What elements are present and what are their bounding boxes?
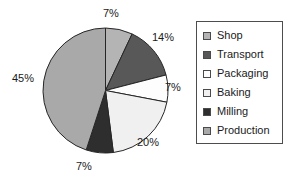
legend-item-production[interactable]: Production <box>197 121 282 140</box>
legend-item-milling[interactable]: Milling <box>197 102 282 121</box>
legend-swatch-baking <box>203 89 211 97</box>
legend-label-packaging: Packaging <box>217 68 268 79</box>
legend-label-shop: Shop <box>217 30 243 41</box>
slice-label-milling: 7% <box>76 160 92 172</box>
pie-slice-group <box>43 28 168 153</box>
legend-label-baking: Baking <box>217 87 251 98</box>
legend-label-production: Production <box>217 125 270 136</box>
slice-label-baking: 20% <box>137 136 159 148</box>
pie-svg <box>0 0 190 183</box>
slice-label-packaging: 7% <box>165 81 181 93</box>
chart-legend: Shop Transport Packaging Baking Milling … <box>196 21 283 144</box>
legend-swatch-milling <box>203 108 211 116</box>
legend-swatch-transport <box>203 51 211 59</box>
slice-label-shop: 7% <box>103 7 119 19</box>
legend-item-transport[interactable]: Transport <box>197 45 282 64</box>
slice-label-production: 45% <box>12 72 34 84</box>
legend-label-milling: Milling <box>217 106 248 117</box>
pie-plot-area: 7% 14% 7% 20% 7% 45% <box>0 0 190 183</box>
legend-swatch-production <box>203 127 211 135</box>
legend-item-packaging[interactable]: Packaging <box>197 64 282 83</box>
pie-chart-figure: 7% 14% 7% 20% 7% 45% Shop Transport Pack… <box>0 0 290 183</box>
legend-item-baking[interactable]: Baking <box>197 83 282 102</box>
legend-swatch-shop <box>203 32 211 40</box>
legend-item-shop[interactable]: Shop <box>197 26 282 45</box>
legend-swatch-packaging <box>203 70 211 78</box>
legend-label-transport: Transport <box>217 49 264 60</box>
slice-label-transport: 14% <box>152 31 174 43</box>
